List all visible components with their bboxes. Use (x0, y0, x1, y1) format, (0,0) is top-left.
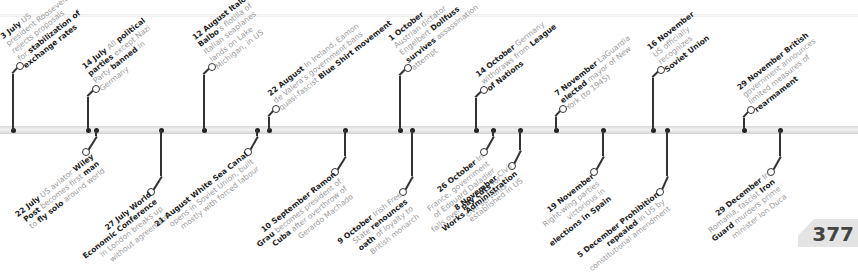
connector-stem (399, 76, 401, 130)
event-label-jul22: 22 July US aviator WileyPost becomes fir… (14, 152, 107, 233)
event-label-nov7: 7 November LaGuardiaelected mayor of New… (553, 34, 643, 113)
connector-stem (475, 98, 477, 130)
connector-stem (602, 130, 604, 156)
connector-stem (268, 117, 270, 130)
event-label-nov16: 16 NovemberUS officiallyrecognizesSoviet… (645, 10, 713, 74)
connector-stem (519, 130, 521, 150)
connector-stem (666, 130, 668, 176)
timeline-axis (0, 126, 858, 134)
connector-stem (160, 130, 162, 176)
event-label-oct1: 1 OctoberAustrian dictatorEngelbert Doll… (387, 0, 486, 72)
connector-stem (344, 130, 346, 156)
page-number: 377 (798, 219, 858, 247)
connector-stem (12, 74, 14, 130)
connector-stem (652, 78, 654, 130)
connector-stem (87, 97, 89, 130)
connector-stem (779, 130, 781, 156)
event-label-jul14: 14 July All politicalparties except Nazi… (80, 16, 164, 93)
event-label-aug22: 22 August In Ireland, Eamonde Valera's g… (266, 5, 394, 113)
event-label-jul27: 27 July WorldEconomic Conferencein Londo… (76, 190, 171, 275)
connector-stem (743, 118, 745, 130)
event-label-oct14: 14 October Germanywithdraws from Leagueo… (474, 15, 564, 94)
event-label-nov29: 29 November Britishgovernment announcesl… (735, 30, 829, 114)
connector-stem (411, 130, 413, 176)
connector-stem (203, 75, 205, 130)
event-label-dec29_a: 29 December InRomania, fascist IronGuard… (699, 170, 788, 251)
event-label-aug12: 12 August ItaloBalbo's flotilla ofItalia… (191, 0, 271, 71)
event-text: opens in Soviet Union, built (167, 157, 255, 228)
event-label-sep10: 10 September RamonGrau becomes president… (249, 170, 355, 264)
event-label-jul3: 3 July USpresident Rooseveltrejects prop… (0, 0, 88, 70)
event-text: de Valera's government bans (272, 30, 365, 106)
event-label-aug21: 21 August White Sea Canalopens in Soviet… (152, 150, 261, 243)
connector-stem (555, 117, 557, 130)
